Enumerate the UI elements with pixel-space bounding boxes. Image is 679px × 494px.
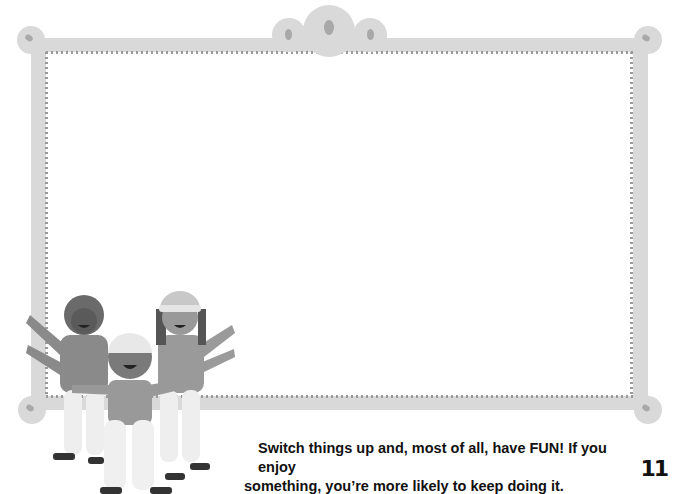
frame-crest-left xyxy=(272,18,306,52)
frame-corner-top-right xyxy=(634,26,662,54)
corner-dot-icon xyxy=(641,403,651,412)
frame-crest-right xyxy=(353,18,387,52)
frame-right-dashes xyxy=(630,52,633,395)
book-page: Switch things up and, most of all, have … xyxy=(0,0,679,494)
child-dark-hair xyxy=(26,295,108,464)
corner-dot-icon xyxy=(641,33,651,42)
body-text-line-1: Switch things up and, most of all, have … xyxy=(244,439,644,477)
frame-corner-top-left xyxy=(17,26,45,54)
kids-dancing-illustration xyxy=(20,285,240,494)
frame-corner-bottom-right xyxy=(634,396,662,424)
body-text: Switch things up and, most of all, have … xyxy=(244,439,644,494)
page-number: 11 xyxy=(640,456,667,481)
corner-dot-icon xyxy=(24,33,34,42)
body-text-line-2: something, you’re more likely to keep do… xyxy=(244,478,564,494)
frame-crest-center xyxy=(303,5,355,57)
frame-right-bar xyxy=(633,38,648,410)
